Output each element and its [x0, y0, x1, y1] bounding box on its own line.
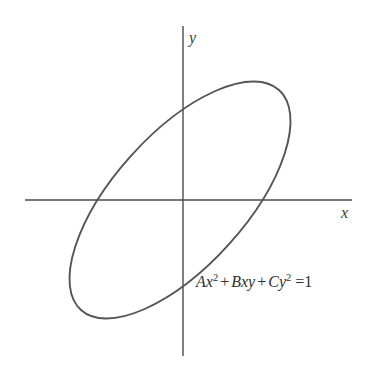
plus-operator-1: +	[218, 273, 231, 290]
term-a-variable: x	[206, 273, 213, 290]
x-axis-label: x	[341, 205, 348, 221]
equals-one: =1	[295, 273, 312, 290]
coefficient-a: A	[196, 273, 206, 290]
coefficient-b: B	[231, 273, 241, 290]
equation-annotation: Ax2+Bxy+Cy2=1	[196, 273, 312, 291]
term-c-variable: y	[279, 273, 286, 290]
plus-operator-2: +	[255, 273, 268, 290]
plot-canvas	[0, 0, 372, 382]
y-axis-label: y	[189, 30, 196, 46]
coefficient-c: C	[268, 273, 279, 290]
term-b-variable: xy	[241, 273, 255, 290]
ellipse-figure: y x Ax2+Bxy+Cy2=1	[0, 0, 372, 382]
term-c-exponent: 2	[286, 272, 291, 283]
